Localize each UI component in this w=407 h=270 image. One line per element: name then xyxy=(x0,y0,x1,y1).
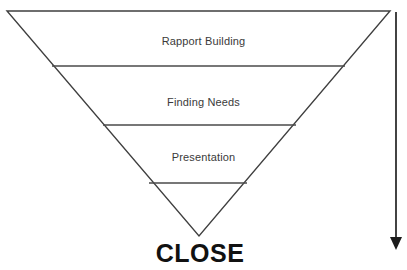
funnel-outcome-close-label: CLOSE xyxy=(0,239,400,268)
stage-label-presentation: Presentation xyxy=(0,151,407,163)
funnel-diagram-canvas: Rapport Building Finding Needs Presentat… xyxy=(0,0,407,270)
downward-progress-arrow xyxy=(390,12,402,250)
stage-label-rapport-building: Rapport Building xyxy=(0,35,407,47)
stage-label-finding-needs: Finding Needs xyxy=(0,96,407,108)
